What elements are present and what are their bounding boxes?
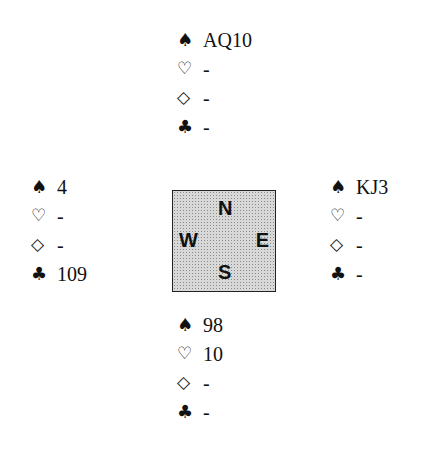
diamond-icon: ◇ xyxy=(177,374,203,391)
east-hand: ♠ KJ3 ♡ - ◇ - ♣ - xyxy=(330,172,388,288)
north-diamonds-cards: - xyxy=(203,88,210,108)
heart-icon: ♡ xyxy=(177,345,203,362)
diamond-icon: ◇ xyxy=(31,236,57,253)
north-hand: ♠ AQ10 ♡ - ◇ - ♣ - xyxy=(177,25,252,141)
south-hearts-row: ♡ 10 xyxy=(177,339,223,368)
north-hearts-row: ♡ - xyxy=(177,54,252,83)
south-diamonds-row: ◇ - xyxy=(177,368,223,397)
north-clubs-row: ♣ - xyxy=(177,112,252,141)
compass-east: E xyxy=(256,229,269,252)
heart-icon: ♡ xyxy=(177,60,203,77)
diamond-icon: ◇ xyxy=(177,89,203,106)
spade-icon: ♠ xyxy=(330,178,356,196)
west-hearts-row: ♡ - xyxy=(31,201,87,230)
heart-icon: ♡ xyxy=(330,207,356,224)
south-hearts-cards: 10 xyxy=(203,344,223,364)
east-diamonds-row: ◇ - xyxy=(330,230,388,259)
south-clubs-cards: - xyxy=(203,402,210,422)
club-icon: ♣ xyxy=(177,118,203,136)
east-clubs-cards: - xyxy=(356,264,363,284)
south-hand: ♠ 98 ♡ 10 ◇ - ♣ - xyxy=(177,310,223,426)
north-spades-row: ♠ AQ10 xyxy=(177,25,252,54)
west-diamonds-cards: - xyxy=(57,235,64,255)
club-icon: ♣ xyxy=(177,403,203,421)
east-spades-cards: KJ3 xyxy=(356,177,388,197)
west-hand: ♠ 4 ♡ - ◇ - ♣ 109 xyxy=(31,172,87,288)
club-icon: ♣ xyxy=(330,265,356,283)
north-spades-cards: AQ10 xyxy=(203,30,252,50)
south-spades-row: ♠ 98 xyxy=(177,310,223,339)
west-clubs-row: ♣ 109 xyxy=(31,259,87,288)
compass-box: N W E S xyxy=(172,190,276,292)
spade-icon: ♠ xyxy=(31,178,57,196)
north-diamonds-row: ◇ - xyxy=(177,83,252,112)
diamond-icon: ◇ xyxy=(330,236,356,253)
east-hearts-cards: - xyxy=(356,206,363,226)
club-icon: ♣ xyxy=(31,265,57,283)
south-spades-cards: 98 xyxy=(203,315,223,335)
west-hearts-cards: - xyxy=(57,206,64,226)
west-spades-cards: 4 xyxy=(57,177,67,197)
west-spades-row: ♠ 4 xyxy=(31,172,87,201)
west-diamonds-row: ◇ - xyxy=(31,230,87,259)
north-clubs-cards: - xyxy=(203,117,210,137)
south-diamonds-cards: - xyxy=(203,373,210,393)
heart-icon: ♡ xyxy=(31,207,57,224)
east-spades-row: ♠ KJ3 xyxy=(330,172,388,201)
east-hearts-row: ♡ - xyxy=(330,201,388,230)
west-clubs-cards: 109 xyxy=(57,264,87,284)
east-clubs-row: ♣ - xyxy=(330,259,388,288)
north-hearts-cards: - xyxy=(203,59,210,79)
east-diamonds-cards: - xyxy=(356,235,363,255)
spade-icon: ♠ xyxy=(177,31,203,49)
compass-west: W xyxy=(179,229,198,252)
south-clubs-row: ♣ - xyxy=(177,397,223,426)
compass-north: N xyxy=(218,197,232,220)
compass-south: S xyxy=(218,261,231,284)
spade-icon: ♠ xyxy=(177,316,203,334)
